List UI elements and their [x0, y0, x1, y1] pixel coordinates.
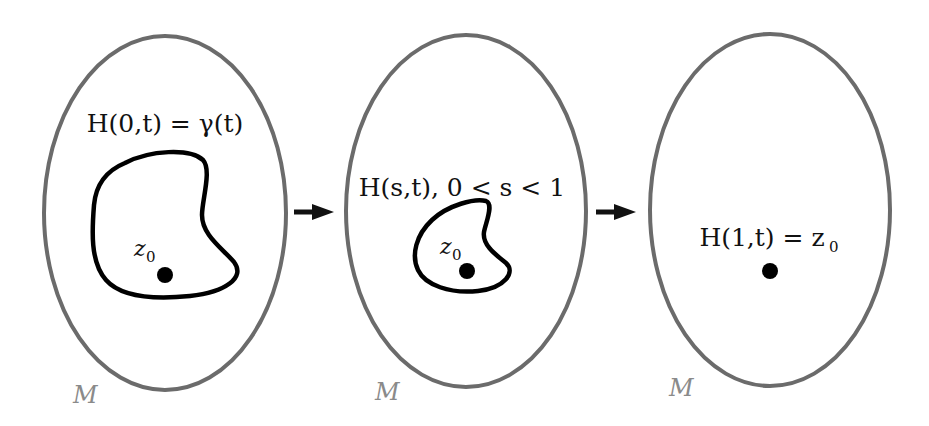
- point-label-subscript: 0: [452, 246, 462, 264]
- manifold-label-M: M: [374, 378, 401, 406]
- arrow-right-icon: [596, 204, 636, 220]
- loop-deformed: [415, 200, 510, 291]
- contracted-point-dot: [762, 263, 778, 279]
- base-point-dot: [157, 267, 173, 283]
- panel-start: H(0,t) = γ(t) z 0 M: [44, 36, 286, 409]
- manifold-label-M: M: [72, 381, 99, 409]
- panel-intermediate: H(s,t), 0 < s < 1 z 0 M: [346, 35, 586, 406]
- caption-H0-gamma: H(0,t) = γ(t): [87, 109, 244, 138]
- base-point-dot: [459, 263, 475, 279]
- panel-end: H(1,t) = z 0 M: [650, 34, 890, 402]
- homotopy-diagram: H(0,t) = γ(t) z 0 M H(s,t), 0 < s < 1 z …: [0, 0, 929, 426]
- manifold-outline: [650, 34, 890, 386]
- manifold-label-M: M: [668, 374, 695, 402]
- manifold-outline: [44, 36, 286, 390]
- arrow-right-icon: [294, 204, 334, 220]
- caption-H1-z0: H(1,t) = z: [699, 223, 824, 252]
- point-label-subscript: 0: [146, 248, 156, 266]
- caption-Hst: H(s,t), 0 < s < 1: [359, 173, 565, 202]
- manifold-outline: [346, 35, 586, 387]
- point-label-z: z: [439, 234, 452, 259]
- caption-subscript: 0: [829, 238, 839, 256]
- point-label-z: z: [133, 236, 146, 261]
